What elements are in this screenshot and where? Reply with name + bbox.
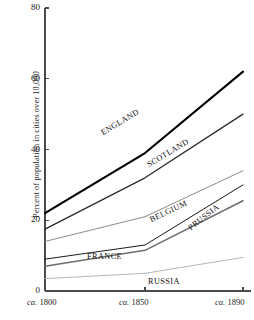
y-axis-tick-label: 80: [18, 2, 40, 12]
y-axis-tick-label: 60: [18, 73, 40, 83]
x-axis-tick-label: ca. 1850: [119, 297, 149, 307]
x-axis-tick-label: ca. 1800: [27, 297, 57, 307]
y-axis-tick-label: 20: [18, 214, 40, 224]
y-axis-tick-label: 40: [18, 144, 40, 154]
series-line-russia: [45, 257, 243, 278]
series-label-france: FRANCE: [87, 252, 122, 261]
chart-series-lines: [45, 72, 243, 279]
x-axis-tick-label: ca. 1890: [215, 297, 245, 307]
series-line-england: [45, 72, 243, 214]
chart-container: Percent of population in cities over 10,…: [0, 0, 254, 320]
y-axis-tick-label: 0: [18, 285, 40, 295]
series-label-russia: RUSSIA: [148, 277, 180, 286]
